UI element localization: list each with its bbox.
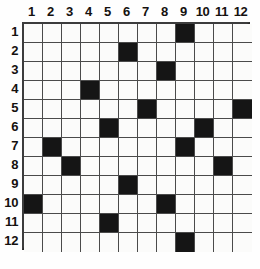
grid-cell-r4c5[interactable] [100, 81, 119, 100]
grid-cell-r5c9[interactable] [176, 100, 195, 119]
grid-cell-r8c3[interactable] [62, 157, 81, 176]
grid-cell-r9c8[interactable] [157, 176, 176, 195]
grid-cell-r6c2[interactable] [43, 119, 62, 138]
grid-cell-r12c12[interactable] [233, 233, 252, 252]
grid-cell-r8c9[interactable] [176, 157, 195, 176]
grid-cell-r10c4[interactable] [81, 195, 100, 214]
grid-cell-r1c2[interactable] [43, 24, 62, 43]
grid-cell-r7c11[interactable] [214, 138, 233, 157]
grid-cell-r2c4[interactable] [81, 43, 100, 62]
grid-cell-r3c8[interactable] [157, 62, 176, 81]
grid-cell-r5c6[interactable] [119, 100, 138, 119]
grid-cell-r4c2[interactable] [43, 81, 62, 100]
grid-cell-r3c5[interactable] [100, 62, 119, 81]
grid-cell-r6c9[interactable] [176, 119, 195, 138]
grid-cell-r7c9[interactable] [176, 138, 195, 157]
grid-cell-r6c11[interactable] [214, 119, 233, 138]
grid-cell-r10c12[interactable] [233, 195, 252, 214]
grid-cell-r11c7[interactable] [138, 214, 157, 233]
grid-cell-r4c7[interactable] [138, 81, 157, 100]
grid-cell-r8c11[interactable] [214, 157, 233, 176]
grid-cell-r1c7[interactable] [138, 24, 157, 43]
grid-cell-r4c4[interactable] [81, 81, 100, 100]
grid-cell-r10c6[interactable] [119, 195, 138, 214]
grid-cell-r7c6[interactable] [119, 138, 138, 157]
grid-cell-r3c1[interactable] [24, 62, 43, 81]
grid-cell-r6c12[interactable] [233, 119, 252, 138]
grid-cell-r12c5[interactable] [100, 233, 119, 252]
grid-cell-r5c3[interactable] [62, 100, 81, 119]
grid-cell-r10c1[interactable] [24, 195, 43, 214]
grid-cell-r7c5[interactable] [100, 138, 119, 157]
grid-cell-r9c7[interactable] [138, 176, 157, 195]
grid-cell-r3c4[interactable] [81, 62, 100, 81]
grid-cell-r6c10[interactable] [195, 119, 214, 138]
grid-cell-r4c1[interactable] [24, 81, 43, 100]
grid-cell-r3c2[interactable] [43, 62, 62, 81]
grid-cell-r11c11[interactable] [214, 214, 233, 233]
grid-cell-r11c5[interactable] [100, 214, 119, 233]
grid-cell-r3c11[interactable] [214, 62, 233, 81]
grid-cell-r9c2[interactable] [43, 176, 62, 195]
grid-cell-r1c9[interactable] [176, 24, 195, 43]
grid-cell-r1c11[interactable] [214, 24, 233, 43]
grid-cell-r7c12[interactable] [233, 138, 252, 157]
grid-cell-r2c11[interactable] [214, 43, 233, 62]
grid-cell-r10c11[interactable] [214, 195, 233, 214]
grid-cell-r8c8[interactable] [157, 157, 176, 176]
grid-cell-r4c12[interactable] [233, 81, 252, 100]
grid-cell-r9c1[interactable] [24, 176, 43, 195]
grid-cell-r4c10[interactable] [195, 81, 214, 100]
grid-cell-r1c1[interactable] [24, 24, 43, 43]
grid-cell-r8c7[interactable] [138, 157, 157, 176]
grid-cell-r11c9[interactable] [176, 214, 195, 233]
grid-cell-r2c7[interactable] [138, 43, 157, 62]
grid-cell-r3c7[interactable] [138, 62, 157, 81]
grid-cell-r7c2[interactable] [43, 138, 62, 157]
grid-cell-r1c6[interactable] [119, 24, 138, 43]
grid-cell-r11c3[interactable] [62, 214, 81, 233]
grid-cell-r6c6[interactable] [119, 119, 138, 138]
grid-cell-r4c8[interactable] [157, 81, 176, 100]
grid-cell-r8c6[interactable] [119, 157, 138, 176]
grid-cell-r7c7[interactable] [138, 138, 157, 157]
grid-cell-r6c5[interactable] [100, 119, 119, 138]
grid-cell-r12c9[interactable] [176, 233, 195, 252]
grid-cell-r7c10[interactable] [195, 138, 214, 157]
grid-cell-r6c3[interactable] [62, 119, 81, 138]
grid-cell-r5c2[interactable] [43, 100, 62, 119]
grid-cell-r1c12[interactable] [233, 24, 252, 43]
grid-cell-r11c1[interactable] [24, 214, 43, 233]
grid-cell-r8c2[interactable] [43, 157, 62, 176]
grid-cell-r12c1[interactable] [24, 233, 43, 252]
grid-cell-r2c8[interactable] [157, 43, 176, 62]
grid-cell-r8c12[interactable] [233, 157, 252, 176]
grid-cell-r6c8[interactable] [157, 119, 176, 138]
grid-cell-r2c9[interactable] [176, 43, 195, 62]
grid-cell-r12c8[interactable] [157, 233, 176, 252]
grid-cell-r11c12[interactable] [233, 214, 252, 233]
grid-cell-r12c3[interactable] [62, 233, 81, 252]
grid-cell-r5c12[interactable] [233, 100, 252, 119]
grid-cell-r4c9[interactable] [176, 81, 195, 100]
grid-cell-r11c8[interactable] [157, 214, 176, 233]
grid-cell-r6c7[interactable] [138, 119, 157, 138]
grid-cell-r3c12[interactable] [233, 62, 252, 81]
grid-cell-r11c6[interactable] [119, 214, 138, 233]
grid-cell-r3c6[interactable] [119, 62, 138, 81]
grid-cell-r4c6[interactable] [119, 81, 138, 100]
grid-cell-r5c1[interactable] [24, 100, 43, 119]
puzzle-grid[interactable] [22, 22, 250, 250]
grid-cell-r9c5[interactable] [100, 176, 119, 195]
grid-cell-r7c4[interactable] [81, 138, 100, 157]
grid-cell-r1c10[interactable] [195, 24, 214, 43]
grid-cell-r1c8[interactable] [157, 24, 176, 43]
grid-cell-r4c11[interactable] [214, 81, 233, 100]
grid-cell-r12c2[interactable] [43, 233, 62, 252]
grid-cell-r3c10[interactable] [195, 62, 214, 81]
grid-cell-r9c6[interactable] [119, 176, 138, 195]
grid-cell-r8c5[interactable] [100, 157, 119, 176]
grid-cell-r6c1[interactable] [24, 119, 43, 138]
grid-cell-r10c2[interactable] [43, 195, 62, 214]
grid-cell-r10c10[interactable] [195, 195, 214, 214]
